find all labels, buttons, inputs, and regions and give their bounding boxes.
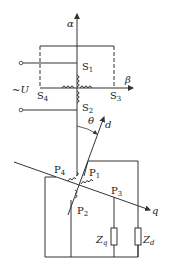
beta-label: β [124, 74, 131, 85]
alpha-label: α [67, 18, 74, 29]
terminal-bottom [19, 108, 23, 112]
d-axis: d [68, 117, 111, 215]
s2-label: S2 [82, 102, 93, 115]
q-label: q [152, 205, 158, 216]
q-axis: q [14, 162, 158, 216]
diagram-canvas: α β ~U S1 S4 S3 S2 d θ [0, 0, 169, 280]
impedance-zd: Zd [135, 228, 155, 247]
svg-text:Zd: Zd [142, 234, 155, 247]
s4-label: S4 [37, 90, 49, 103]
source-voltage-label: ~U [12, 84, 29, 95]
impedance-zq: Zq [95, 228, 117, 247]
d-label: d [105, 119, 111, 130]
p4-label: P4 [54, 164, 66, 177]
alpha-axis: α [67, 14, 77, 176]
p1-label: P1 [89, 167, 100, 180]
s1-label: S1 [82, 61, 93, 74]
svg-text:Zq: Zq [95, 234, 108, 247]
terminal-top [19, 61, 23, 65]
s3-label: S3 [110, 90, 121, 103]
theta-angle: θ [77, 115, 97, 134]
p3-label: P3 [111, 185, 122, 198]
p2-label: P2 [77, 205, 88, 218]
theta-label: θ [88, 115, 94, 126]
